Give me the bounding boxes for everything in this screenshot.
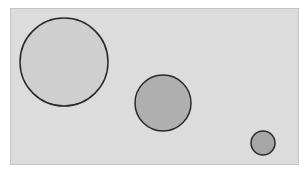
circles-canvas <box>0 0 307 176</box>
large-circle <box>20 18 108 106</box>
medium-circle <box>135 75 191 131</box>
small-circle <box>251 131 275 155</box>
